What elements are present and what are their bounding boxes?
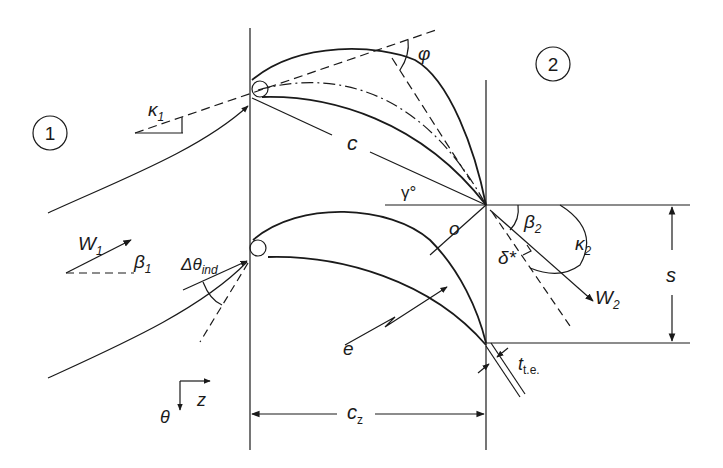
lower-blade-leading-edge-circle (250, 240, 266, 256)
upper-blade-suction-surface (252, 49, 486, 205)
phi-label: φ (418, 43, 430, 64)
deviation-label: δ* (498, 247, 517, 268)
upper-blade (252, 49, 486, 205)
chord-label: c (347, 131, 358, 154)
blade-cascade-diagram: 1 2 κ1 φ c γ° W1 β1 Δθind o β2 κ2 δ* W2 … (0, 0, 723, 468)
te-thickness-label: tt.e. (518, 354, 540, 377)
z-axis-label: z (196, 390, 206, 410)
throat-label: o (449, 218, 460, 239)
axial-chord-label: cz (347, 401, 363, 427)
beta2-label: β2 (523, 211, 542, 236)
lower-blade-pressure-surface (268, 257, 486, 345)
kappa1-label: κ1 (148, 99, 164, 124)
te-thickness-line-1 (486, 346, 520, 397)
pitch-label: s (666, 264, 676, 286)
station-1-label: 1 (45, 123, 56, 144)
chord-line-part1 (252, 98, 332, 135)
station-2-label: 2 (548, 54, 559, 75)
delta-theta-angle-arc (203, 282, 222, 305)
deviation-angle-mark (523, 245, 531, 255)
theta-axis-label: θ (160, 407, 170, 427)
w2-label: W2 (595, 287, 620, 312)
inlet-blade-angle-dashed-line (135, 30, 436, 133)
e-dimension-line (345, 287, 447, 345)
e-label: e (343, 338, 354, 359)
upper-blade-pressure-surface (262, 97, 486, 205)
upper-blade-camber-line (258, 83, 486, 205)
beta1-label: β1 (133, 251, 152, 276)
stagger-angle-label: γ° (401, 183, 416, 202)
lower-inlet-streamline (48, 262, 247, 378)
upper-inlet-streamline (48, 106, 248, 213)
te-thickness-arrow-right (497, 348, 508, 357)
delta-theta-ind-label: Δθind (180, 255, 218, 277)
te-thickness-arrow-left (478, 364, 489, 373)
w1-label: W1 (78, 233, 103, 258)
beta2-angle-arc (510, 205, 518, 230)
kappa2-label: κ2 (575, 233, 592, 258)
